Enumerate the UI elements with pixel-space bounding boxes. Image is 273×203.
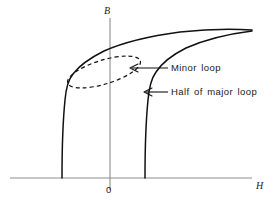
x-axis-label: H — [256, 180, 263, 191]
minor-loop-label: Minor loop — [171, 62, 221, 73]
minor-loop-branch-curve — [62, 29, 252, 178]
y-axis-label: B — [104, 5, 110, 16]
hysteresis-figure: Minor loop Half of major loop B H 0 — [0, 0, 273, 203]
origin-label: 0 — [106, 184, 111, 195]
half-major-loop-branch-curve — [145, 31, 252, 178]
half-major-loop-label: Half of major loop — [171, 86, 257, 97]
diagram-canvas — [0, 0, 273, 203]
minor-loop-dashed-ellipse — [64, 49, 144, 94]
